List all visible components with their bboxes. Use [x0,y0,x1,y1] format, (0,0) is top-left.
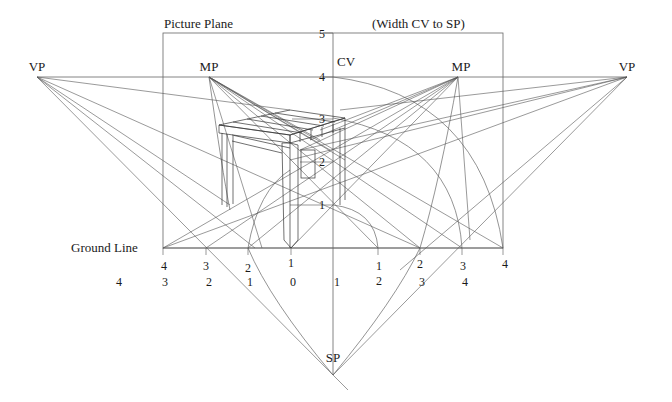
svg-text:4: 4 [319,70,325,84]
svg-text:5: 5 [319,27,325,41]
mp-right-label: MP [452,59,471,74]
svg-text:1: 1 [319,198,325,212]
ground-tick-numbers-bottom: 4 3 2 1 0 1 2 3 4 [116,274,468,289]
vertical-scale-ticks [290,33,333,205]
sp-label: SP [326,350,340,365]
svg-text:3: 3 [203,259,209,273]
svg-text:0: 0 [290,275,296,289]
vp-left-label: VP [29,59,46,74]
ground-tick-numbers-top: 4 3 2 1 1 2 3 4 [161,256,508,275]
vp-right-label: VP [619,59,636,74]
svg-text:4: 4 [462,275,468,289]
svg-text:2: 2 [206,275,212,289]
left-mp-lines [209,77,503,248]
ground-line-label: Ground Line [71,240,138,255]
station-point-lines [37,77,627,390]
picture-plane-label: Picture Plane [164,16,233,31]
width-note-label: (Width CV to SP) [372,16,465,31]
vertical-scale-numbers: 5 4 3 2 1 [319,27,325,212]
left-vp-lines [37,77,420,248]
svg-text:1: 1 [376,259,382,273]
svg-text:1: 1 [334,275,340,289]
svg-text:2: 2 [245,261,251,275]
svg-text:2: 2 [319,155,325,169]
mp-left-label: MP [200,59,219,74]
svg-text:2: 2 [417,257,423,271]
svg-text:3: 3 [319,112,325,126]
two-point-perspective-diagram: Picture Plane (Width CV to SP) VP VP MP … [0,0,672,402]
svg-text:3: 3 [162,275,168,289]
cv-label: CV [337,54,356,69]
svg-text:4: 4 [116,275,122,289]
svg-text:1: 1 [247,275,253,289]
svg-text:1: 1 [288,256,294,270]
svg-text:4: 4 [502,257,508,271]
svg-text:3: 3 [419,275,425,289]
svg-text:2: 2 [376,274,382,288]
svg-text:4: 4 [161,259,167,273]
svg-text:3: 3 [460,259,466,273]
